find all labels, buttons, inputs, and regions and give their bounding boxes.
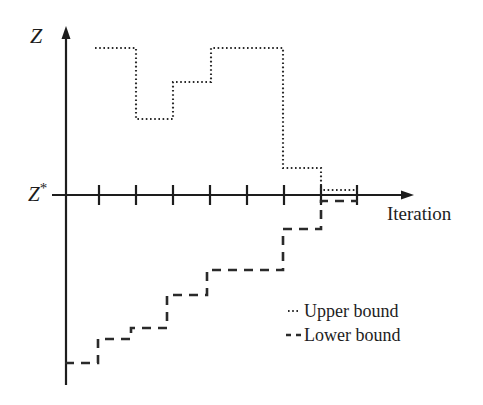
y-axis-arrowhead: [62, 26, 71, 39]
upper-bound-curve: [95, 48, 358, 190]
y-axis-label: Z: [30, 25, 42, 47]
y-axis-optimal-base: Z: [28, 182, 40, 206]
y-axis-optimal-superscript: *: [40, 180, 48, 196]
x-axis-arrowhead: [401, 191, 414, 200]
legend-lower-bound-label: Lower bound: [304, 326, 400, 344]
y-axis-optimal-label: Z*: [28, 181, 47, 205]
bound-convergence-chart: Z Z* Iteration Upper bound Lower bound: [0, 0, 483, 405]
legend-upper-bound-label: Upper bound: [304, 302, 398, 320]
x-axis-label: Iteration: [387, 204, 451, 223]
